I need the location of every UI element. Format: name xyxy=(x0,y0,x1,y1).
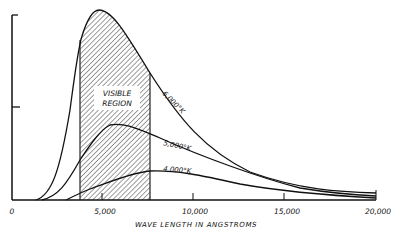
visible-region-label-line1: VISIBLE xyxy=(103,89,132,98)
blackbody-radiation-chart: VISIBLE REGION 6,000°K 5,000°K 4,000°K 0… xyxy=(0,0,401,237)
visible-region-label-line2: REGION xyxy=(102,99,132,108)
x-tick-label-15000: 15,000 xyxy=(274,207,300,216)
x-tick-label-10000: 10,000 xyxy=(182,207,208,216)
x-axis-title: WAVE LENGTH IN ANGSTROMS xyxy=(135,221,257,229)
curve-label-5000k: 5,000°K xyxy=(163,139,194,153)
x-tick-label-0: 0 xyxy=(10,207,15,216)
curve-label-6000k: 6,000°K xyxy=(161,90,188,117)
x-tick-label-20000: 20,000 xyxy=(365,207,391,216)
x-tick-label-5000: 5,000 xyxy=(94,207,116,216)
curve-label-4000k: 4,000°K xyxy=(163,165,193,176)
